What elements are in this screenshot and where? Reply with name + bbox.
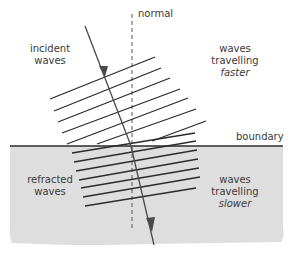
slower-label-line3: slower	[207, 198, 263, 210]
slower-label: waves travelling slower	[207, 174, 263, 210]
slower-label-line2: travelling	[207, 186, 263, 198]
boundary-label: boundary	[236, 131, 284, 143]
normal-label: normal	[138, 8, 173, 20]
incident-label-line1: incident	[28, 43, 72, 55]
faster-label-line1: waves	[207, 43, 263, 55]
incident-label-line2: waves	[28, 55, 72, 67]
incident-wavefronts	[50, 57, 206, 144]
boundary-label-text: boundary	[236, 131, 284, 143]
faster-label-line3: faster	[207, 67, 263, 79]
normal-label-text: normal	[138, 8, 173, 20]
incident-waves-label: incident waves	[28, 43, 72, 67]
refracted-label-line2: waves	[22, 186, 78, 198]
refracted-waves-label: refracted waves	[22, 174, 78, 198]
faster-label: waves travelling faster	[207, 43, 263, 79]
refracted-label-line1: refracted	[22, 174, 78, 186]
faster-label-line2: travelling	[207, 55, 263, 67]
slower-label-line1: waves	[207, 174, 263, 186]
refraction-diagram	[0, 0, 290, 255]
